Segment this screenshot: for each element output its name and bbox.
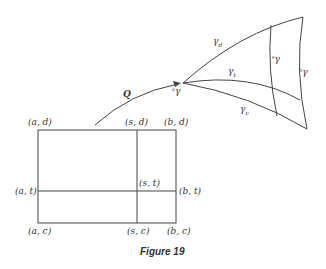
map-label-Q: Q <box>123 89 131 99</box>
label-gamma-t: γt <box>228 66 236 78</box>
label-gamma-d: γd <box>213 36 222 48</box>
label-b-gamma: bγ <box>299 67 308 77</box>
figure-caption: Figure 19 <box>140 246 185 257</box>
curve-gamma-d <box>183 17 303 83</box>
label-a-t: (a, t) <box>15 186 37 196</box>
label-gamma-c: γc <box>240 104 249 116</box>
label-b-c: (b, c) <box>167 226 191 236</box>
rectangle-outline <box>38 130 176 223</box>
label-a-gamma: aγ <box>172 86 181 96</box>
label-a-d: (a, d) <box>28 117 52 127</box>
label-b-t: (b, t) <box>179 186 202 196</box>
parameter-rectangle <box>38 130 176 223</box>
curve-s-gamma <box>270 25 277 116</box>
label-s-c: (s, c) <box>127 226 150 236</box>
curve-gamma-t <box>183 80 300 100</box>
label-s-t: (s, t) <box>139 178 160 188</box>
label-s-gamma: sγ <box>272 54 281 64</box>
figure-diagram: (a, d) (s, d) (b, d) (a, t) (s, t) (b, t… <box>0 0 326 269</box>
label-a-c: (a, c) <box>28 226 52 236</box>
label-b-d: (b, d) <box>164 117 189 127</box>
label-s-d: (s, d) <box>125 117 149 127</box>
